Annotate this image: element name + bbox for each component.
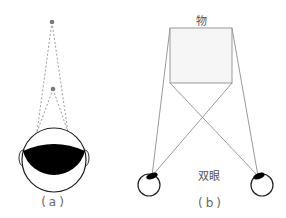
right-eye	[251, 171, 273, 196]
caption-b: (b)	[198, 196, 224, 210]
sightlines-a	[37, 22, 68, 132]
object-box	[170, 28, 232, 83]
caption-a: (a)	[41, 195, 67, 209]
head-top-view	[19, 128, 89, 192]
eyes-label: 双眼	[198, 167, 220, 183]
left-eye	[138, 171, 160, 196]
near-point	[51, 87, 56, 92]
far-point	[50, 20, 55, 25]
object-label: 物	[196, 12, 207, 28]
diagram-canvas	[0, 0, 286, 218]
